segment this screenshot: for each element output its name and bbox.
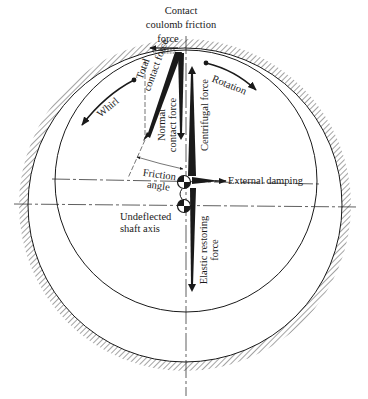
deflected-center-marker <box>178 176 191 189</box>
label-undeflected-2: shaft axis <box>120 223 160 234</box>
label-elastic-restoring-1: Elastic restoring <box>198 215 209 284</box>
label-external-damping: External damping <box>228 175 304 186</box>
label-friction-force-2: coulomb friction <box>146 19 217 30</box>
label-centrifugal-force: Centrifugal force <box>199 79 210 151</box>
label-friction-force-1: Contact <box>165 5 198 16</box>
label-normal-contact-force-2: contact force <box>167 97 178 152</box>
undeflected-center-marker <box>178 200 191 213</box>
rub-force-diagram: Contact coulomb friction force Total con… <box>0 0 368 399</box>
label-undeflected-1: Undeflected <box>120 211 172 222</box>
label-elastic-restoring-2: force <box>209 239 220 261</box>
label-normal-contact-force-1: Normal <box>156 109 167 141</box>
